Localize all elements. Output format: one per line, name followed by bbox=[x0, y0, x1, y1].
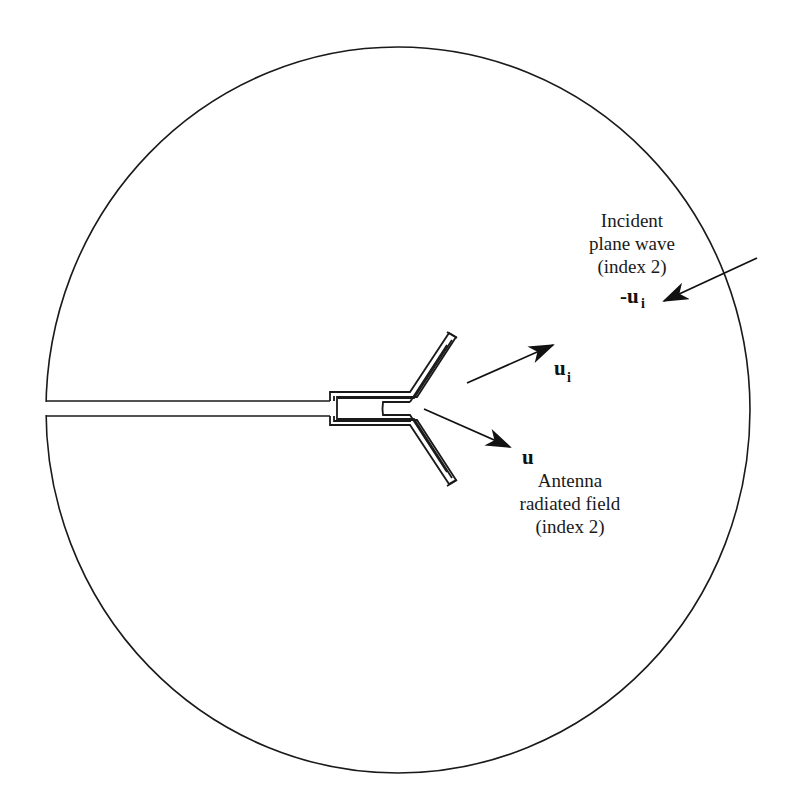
radiated-line3: (index 2) bbox=[535, 516, 604, 538]
diagram-svg: Incident plane wave (index 2) -u i u i u… bbox=[0, 0, 792, 810]
ui-subscript: i bbox=[567, 370, 571, 385]
u-arrow bbox=[424, 409, 510, 447]
antenna-slot bbox=[383, 402, 448, 472]
radiated-field-label: Antenna radiated field (index 2) bbox=[520, 470, 621, 538]
radiated-line1: Antenna bbox=[538, 470, 603, 491]
feed-entry-gap bbox=[44, 402, 52, 415]
feed-line bbox=[47, 401, 330, 416]
incident-line3: (index 2) bbox=[597, 256, 666, 278]
incident-line2: plane wave bbox=[589, 233, 675, 254]
radiated-line2: radiated field bbox=[520, 493, 621, 514]
incident-wave-arrow bbox=[664, 258, 757, 301]
diagram-canvas: Incident plane wave (index 2) -u i u i u… bbox=[0, 0, 792, 810]
antenna bbox=[330, 332, 457, 486]
neg-ui-base: -u bbox=[620, 284, 639, 308]
incident-line1: Incident bbox=[601, 210, 664, 231]
neg-ui-subscript: i bbox=[641, 296, 645, 311]
neg-ui-label: -u i bbox=[620, 284, 645, 311]
antenna-slot-upper bbox=[410, 345, 447, 402]
ui-label: u i bbox=[554, 356, 571, 385]
boundary-sphere bbox=[46, 47, 750, 773]
ui-arrow bbox=[467, 345, 553, 383]
u-label: u bbox=[522, 445, 534, 469]
incident-wave-label: Incident plane wave (index 2) bbox=[589, 210, 675, 278]
antenna-inner-contour bbox=[334, 396, 411, 421]
antenna-inner-edges bbox=[338, 340, 452, 478]
ui-base: u bbox=[554, 356, 566, 380]
antenna-outer-contour bbox=[330, 333, 456, 484]
